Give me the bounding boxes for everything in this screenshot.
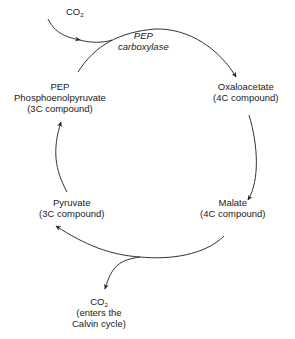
co2-output-text: CO	[90, 296, 104, 307]
enzyme-line-2: carboxylase	[118, 41, 169, 52]
co2-merge-curve	[80, 40, 112, 42]
node-pep-line-2: Phosphoenolpyruvate	[14, 92, 106, 103]
node-pep-line-3: (3C compound)	[14, 103, 106, 114]
co2-input-arrow	[48, 19, 80, 40]
co2-input-text: CO	[66, 6, 80, 17]
node-malate-line-2: (4C compound)	[200, 208, 265, 219]
node-pyruvate-line-2: (3C compound)	[39, 208, 104, 219]
node-pyruvate-line-1: Pyruvate	[39, 197, 104, 208]
node-pyruvate: Pyruvate (3C compound)	[39, 197, 104, 219]
co2-output-line-2: (enters the	[72, 307, 126, 318]
node-oxaloacetate-line-2: (4C compound)	[213, 92, 278, 103]
co2-output-line-3: Calvin cycle)	[72, 318, 126, 329]
node-pep: PEP Phosphoenolpyruvate (3C compound)	[14, 81, 106, 114]
arc-oxaloacetate-to-malate	[248, 115, 256, 200]
node-oxaloacetate: Oxaloacetate (4C compound)	[213, 81, 278, 103]
co2-output-arrow	[105, 257, 140, 289]
co2-output-label: CO2 (enters the Calvin cycle)	[72, 296, 126, 329]
enzyme-line-1: PEP	[118, 30, 169, 41]
node-malate: Malate (4C compound)	[200, 197, 265, 219]
co2-input-subscript: 2	[80, 12, 83, 18]
node-oxaloacetate-line-1: Oxaloacetate	[213, 81, 278, 92]
arc-pyruvate-to-pep	[56, 122, 67, 192]
node-malate-line-1: Malate	[200, 197, 265, 208]
arc-malate-to-pyruvate	[56, 226, 224, 258]
enzyme-label: PEP carboxylase	[118, 30, 169, 52]
node-pep-line-1: PEP	[14, 81, 106, 92]
co2-input-label: CO2	[66, 6, 84, 17]
